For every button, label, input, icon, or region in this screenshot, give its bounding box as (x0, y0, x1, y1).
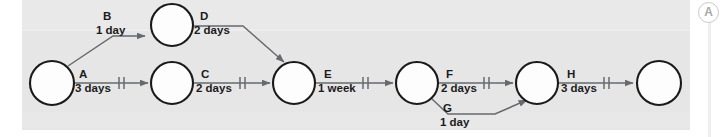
edge-label-a-name: A (79, 68, 87, 80)
edge-label-c-name: C (201, 68, 209, 80)
edge-label-h-name: H (567, 68, 575, 80)
edge-label-b-name: B (103, 10, 111, 22)
edge-label-c-duration: 2 days (196, 82, 232, 94)
edge-label-f-name: F (446, 68, 453, 80)
node-after-a[interactable] (151, 62, 193, 104)
edge-label-f-duration: 2 days (441, 82, 477, 94)
edge-b (68, 36, 145, 66)
edge-label-g-name: G (443, 102, 452, 114)
edge-label-e-duration: 1 week (318, 82, 356, 94)
node-end[interactable] (637, 61, 681, 105)
edge-label-b-duration: 1 day (96, 24, 126, 36)
edge-label-d-name: D (200, 10, 208, 22)
edge-label-d-duration: 2 days (194, 24, 230, 36)
edge-label-g-duration: 1 day (440, 116, 470, 128)
network-diagram: B 1 day D 2 days A 3 days C 2 days E 1 w… (0, 0, 725, 137)
node-upper-b[interactable] (151, 4, 193, 46)
node-after-e[interactable] (396, 62, 438, 104)
node-start[interactable] (30, 61, 74, 105)
node-merge-cd[interactable] (273, 62, 315, 104)
figure-container: A (0, 0, 725, 137)
edge-label-a-duration: 3 days (75, 82, 111, 94)
node-merge-fg[interactable] (516, 62, 558, 104)
edge-label-h-duration: 3 days (561, 82, 597, 94)
edge-label-e-name: E (324, 68, 332, 80)
